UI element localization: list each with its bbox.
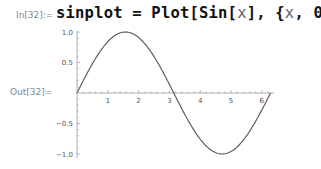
svg-text:3: 3 bbox=[167, 97, 171, 105]
svg-text:2: 2 bbox=[136, 97, 140, 105]
svg-text:1.0: 1.0 bbox=[62, 29, 73, 37]
svg-text:4: 4 bbox=[198, 97, 203, 105]
svg-text:0.5: 0.5 bbox=[62, 59, 73, 67]
sin-plot[interactable]: 123456 1.00.5−0.5−1.0 bbox=[0, 0, 321, 169]
svg-text:6: 6 bbox=[260, 97, 265, 105]
svg-text:5: 5 bbox=[229, 97, 233, 105]
x-tick-labels: 123456 bbox=[106, 97, 265, 105]
svg-text:−1.0: −1.0 bbox=[56, 151, 73, 159]
y-tick-labels: 1.00.5−0.5−1.0 bbox=[56, 29, 73, 159]
svg-text:−0.5: −0.5 bbox=[56, 120, 73, 128]
svg-text:1: 1 bbox=[106, 97, 110, 105]
x-ticks bbox=[83, 90, 268, 93]
